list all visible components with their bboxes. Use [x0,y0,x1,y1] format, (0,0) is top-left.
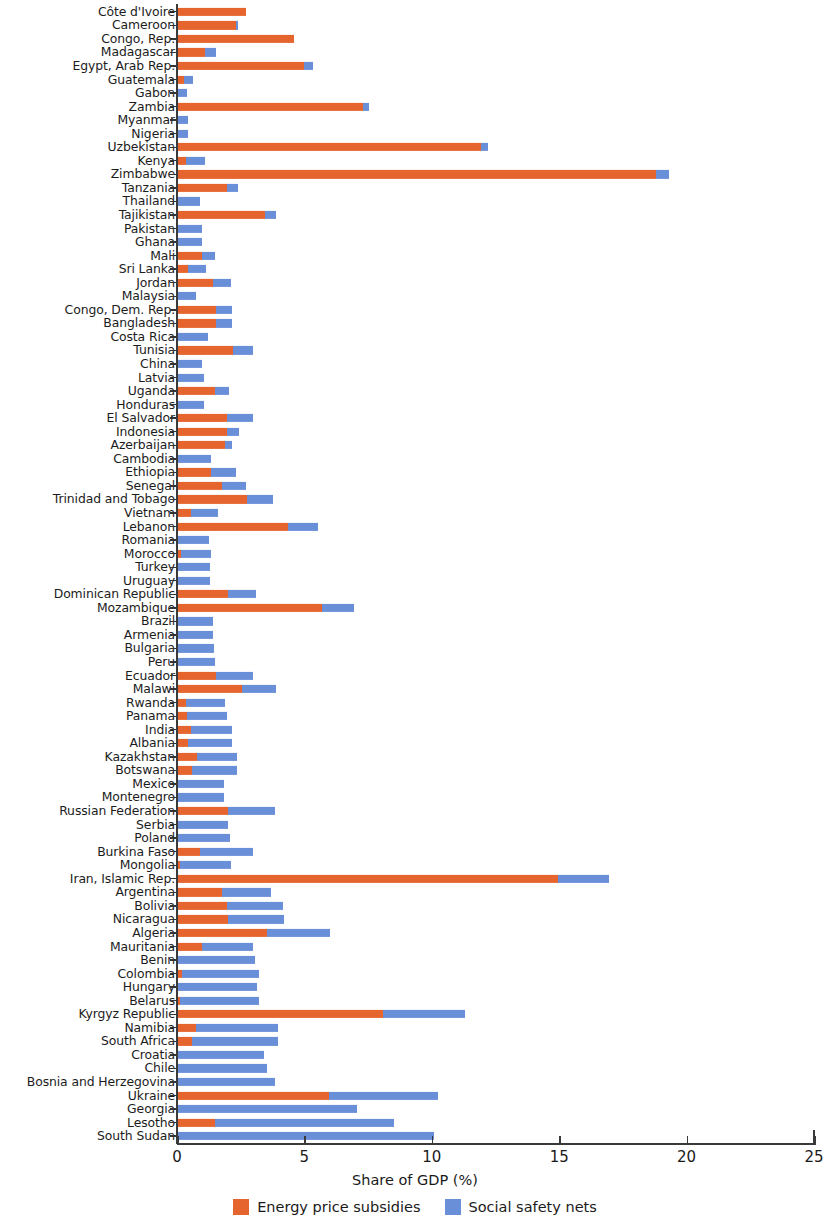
bar-segment-energy-price-subsidies [177,319,216,327]
stacked-bar [177,401,204,409]
stacked-bar [177,170,669,178]
legend-swatch-icon [445,1199,461,1215]
bar-segment-energy-price-subsidies [177,888,222,896]
bar-segment-energy-price-subsidies [177,509,191,517]
bar-segment-energy-price-subsidies [177,35,294,43]
category-label: Mongolia [120,859,175,871]
bar-segment-social-safety-nets [228,590,256,598]
bar-segment-energy-price-subsidies [177,699,186,707]
category-label: Romania [122,534,176,546]
stacked-bar [177,238,202,246]
category-label: Honduras [116,398,175,410]
bar-segment-social-safety-nets [383,1010,465,1018]
category-label: Congo, Rep. [101,33,175,45]
bar-segment-social-safety-nets [247,495,272,503]
bar-segment-energy-price-subsidies [177,604,322,612]
x-axis-tick [432,1136,434,1145]
category-label: Ecuador [125,669,175,681]
bar-segment-energy-price-subsidies [177,279,213,287]
category-label: Costa Rica [110,331,175,343]
bar-segment-social-safety-nets [192,1037,277,1045]
stacked-bar [177,265,206,273]
category-label: Malaysia [122,290,175,302]
stacked-bar [177,848,253,856]
bar-row: Serbia [0,818,830,832]
bar-segment-social-safety-nets [191,726,232,734]
category-label: Argentina [115,886,175,898]
category-label: Bolivia [134,900,175,912]
bar-segment-social-safety-nets [178,130,188,138]
stacked-bar [177,563,210,571]
bar-segment-social-safety-nets [177,197,200,205]
bar-segment-social-safety-nets [304,62,313,70]
stacked-bar [177,726,232,734]
x-axis-tick-label: 5 [300,1148,310,1166]
stacked-bar [177,766,237,774]
category-label: Egypt, Arab Rep. [73,60,175,72]
stacked-bar [177,1010,465,1018]
bar-segment-social-safety-nets [178,116,188,124]
stacked-bar [177,21,238,29]
bar-segment-social-safety-nets [186,699,225,707]
bar-segment-energy-price-subsidies [177,414,227,422]
bar-segment-social-safety-nets [322,604,354,612]
bar-segment-energy-price-subsidies [177,428,227,436]
x-axis-tick [814,1136,816,1145]
x-axis-tick [177,1136,179,1145]
bar-segment-energy-price-subsidies [177,441,225,449]
bar-segment-energy-price-subsidies [177,265,188,273]
x-axis-label: Share of GDP (%) [0,1172,830,1188]
bar-row: India [0,723,830,737]
category-label: Bosnia and Herzegovina [27,1076,175,1088]
stacked-bar [177,997,259,1005]
bar-segment-energy-price-subsidies [177,252,202,260]
category-label: Malawi [133,683,175,695]
category-label: Lebanon [123,520,175,532]
stacked-bar [177,550,211,558]
stacked-bar [177,387,229,395]
bar-segment-energy-price-subsidies [177,848,200,856]
stacked-bar [177,970,259,978]
bar-segment-social-safety-nets [227,902,283,910]
category-label: Kyrgyz Republic [78,1008,175,1020]
bar-segment-social-safety-nets [187,712,226,720]
bar-segment-social-safety-nets [181,550,212,558]
stacked-bar [177,834,230,842]
bar-segment-social-safety-nets [177,820,228,828]
category-label: Russian Federation [59,805,175,817]
category-label: Burkina Faso [97,845,175,857]
bar-row: Ghana [0,235,830,249]
legend-label: Social safety nets [469,1199,597,1215]
bar-segment-energy-price-subsidies [177,902,227,910]
stacked-bar [177,929,330,937]
x-axis-tick [687,1136,689,1145]
category-label: Tanzania [122,182,175,194]
bar-segment-energy-price-subsidies [177,211,265,219]
bar-segment-energy-price-subsidies [177,75,184,83]
stacked-bar [177,807,275,815]
bar-segment-energy-price-subsidies [177,1010,383,1018]
bar-segment-social-safety-nets [216,671,253,679]
bar-segment-energy-price-subsidies [177,942,202,950]
bar-segment-social-safety-nets [177,238,202,246]
bar-segment-energy-price-subsidies [177,739,188,747]
bar-segment-social-safety-nets [177,89,187,97]
bar-segment-social-safety-nets [177,360,202,368]
stacked-bar [177,482,246,490]
stacked-bar [177,590,256,598]
plot-area: Côte d'IvoireCameroonCongo, Rep.Madagasc… [0,0,830,1143]
x-axis-tick-label: 10 [422,1148,441,1166]
category-label: Armenia [124,629,175,641]
stacked-bar [177,184,238,192]
stacked-bar [177,522,318,530]
category-label: Iran, Islamic Rep. [70,873,175,885]
bar-segment-energy-price-subsidies [177,184,227,192]
bar-row: Panama [0,709,830,723]
bar-segment-social-safety-nets [200,848,254,856]
bar-row: Myanmar [0,113,830,127]
bar-segment-social-safety-nets [236,21,239,29]
bar-segment-social-safety-nets [180,997,259,1005]
category-label: Bangladesh [103,317,175,329]
bar-row: Russian Federation [0,804,830,818]
bar-segment-social-safety-nets [558,875,609,883]
